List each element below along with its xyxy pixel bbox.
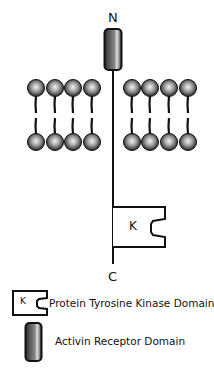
legend-kinase-letter: K [20, 296, 26, 306]
legend-kinase-domain-icon [13, 291, 47, 315]
diagram-canvas [0, 0, 214, 378]
c-terminus-label: C [108, 269, 117, 284]
lipid-bilayer-left [28, 80, 101, 151]
legend-activin-receptor-cylinder-icon [26, 323, 42, 361]
kinase-letter: K [129, 219, 137, 233]
lipid-bottom-row-right [124, 118, 197, 151]
lipid-bilayer-right [124, 80, 197, 151]
lipid-bottom-row-left [28, 118, 101, 151]
lipid-top-row-right [124, 80, 197, 114]
lipid-top-row-left [28, 80, 101, 114]
legend-activin-label: Activin Receptor Domain [55, 335, 185, 347]
n-terminus-label: N [108, 10, 118, 25]
kinase-domain-shape [113, 207, 165, 247]
legend-kinase-label: Protein Tyrosine Kinase Domain [49, 297, 214, 309]
activin-receptor-domain-cylinder [105, 29, 122, 70]
